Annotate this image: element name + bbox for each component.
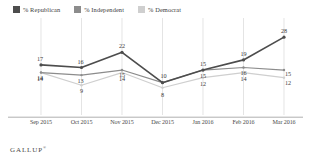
legend-label-republican: % Republican (23, 6, 60, 13)
registered-mark: ® (43, 145, 46, 150)
x-axis-label: Oct 2015 (71, 119, 93, 125)
point-label: 19 (240, 50, 246, 57)
point-label: 17 (37, 55, 43, 62)
point-label: 14 (37, 75, 43, 82)
legend-label-democrat: % Democrat (148, 6, 181, 13)
x-axis-label: Mar 2016 (272, 119, 295, 125)
point-label: 15 (200, 72, 206, 79)
point-label: 8 (161, 91, 164, 98)
point-label: 14 (119, 75, 125, 82)
data-point (39, 63, 42, 66)
point-label: 12 (285, 79, 291, 86)
data-point (120, 51, 123, 54)
x-axis-label: Nov 2015 (110, 119, 133, 125)
legend-swatch-republican (13, 6, 20, 13)
point-label: 14 (240, 75, 246, 82)
x-axis-label: Dec 2015 (151, 119, 174, 125)
point-label: 9 (80, 87, 83, 94)
point-label: 22 (119, 42, 125, 49)
legend-item-democrat: % Democrat (138, 6, 181, 13)
data-point (242, 58, 245, 61)
point-label: 16 (77, 58, 83, 65)
legend-swatch-independent (74, 6, 81, 13)
plot-svg: 17162210151928141315151615149148121412 (0, 18, 311, 118)
x-axis-label: Jan 2016 (192, 119, 213, 125)
legend-item-independent: % Independent (74, 6, 124, 13)
x-axis-label: Sep 2015 (30, 119, 52, 125)
legend-label-independent: % Independent (84, 6, 124, 13)
gallup-line-chart: % Republican % Independent % Democrat 17… (0, 0, 311, 165)
data-point (161, 87, 163, 89)
x-axis-labels: Sep 2015Oct 2015Nov 2015Dec 2015Jan 2016… (0, 119, 311, 133)
chart-legend: % Republican % Independent % Democrat (13, 3, 181, 15)
gallup-brand: GALLUP® (10, 145, 46, 154)
point-label: 28 (281, 27, 287, 34)
data-point (80, 66, 83, 69)
point-label: 12 (200, 80, 206, 87)
point-label: 10 (160, 72, 166, 79)
gallup-wordmark: GALLUP (10, 146, 43, 154)
labels-republican: 17162210151928 (37, 27, 287, 79)
data-point (161, 81, 164, 84)
x-axis-label: Feb 2016 (232, 119, 254, 125)
point-label: 13 (77, 77, 83, 84)
legend-swatch-democrat (138, 6, 145, 13)
point-label: 15 (285, 70, 291, 77)
plot-area: 17162210151928141315151615149148121412 (0, 18, 311, 118)
data-point (282, 36, 285, 39)
legend-item-republican: % Republican (13, 6, 60, 13)
data-point (80, 84, 82, 86)
point-label: 15 (200, 60, 206, 67)
